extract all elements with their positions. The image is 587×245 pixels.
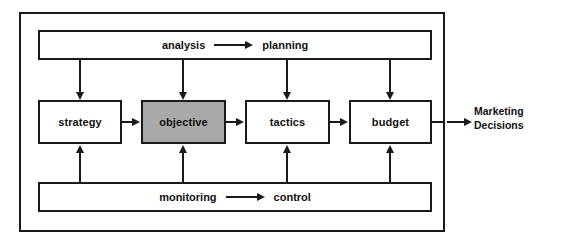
connector-top-to-tactics-line: [286, 60, 288, 96]
output-arrow-head: [464, 118, 472, 126]
connector-top-to-budget-arrow: [386, 92, 394, 100]
connector-bottom-to-objective-arrow: [179, 145, 187, 153]
node-budget[interactable]: budget: [349, 100, 432, 144]
node-tactics[interactable]: tactics: [245, 100, 330, 144]
output-label-line1: Marketing: [474, 104, 524, 118]
top-bar-left-term: analysis: [162, 39, 205, 51]
node-tactics-label: tactics: [270, 116, 306, 128]
connector-top-to-tactics-arrow: [283, 92, 291, 100]
connector-tactics-budget-arrow: [340, 118, 348, 126]
node-budget-label: budget: [372, 116, 409, 128]
connector-top-to-strategy-line: [79, 60, 81, 96]
top-bar-right-term: planning: [262, 39, 308, 51]
right-arrow-icon: [226, 193, 265, 201]
connector-top-to-budget-line: [389, 60, 391, 96]
connector-strategy-objective-arrow: [132, 118, 140, 126]
connector-bottom-to-strategy-line: [79, 152, 81, 182]
connector-bottom-to-budget-arrow: [386, 145, 394, 153]
connector-bottom-to-objective-line: [182, 152, 184, 182]
top-bar-content: analysis planning: [162, 39, 308, 51]
bottom-bar-content: monitoring control: [159, 191, 311, 203]
connector-bottom-to-tactics-arrow: [283, 145, 291, 153]
right-arrow-icon: [214, 41, 253, 49]
output-label-marketing-decisions: Marketing Decisions: [474, 104, 524, 132]
node-strategy-label: strategy: [58, 116, 102, 128]
node-objective[interactable]: objective: [141, 100, 226, 144]
connector-bottom-to-budget-line: [389, 152, 391, 182]
bottom-bar-left-term: monitoring: [159, 191, 216, 203]
connector-objective-tactics-arrow: [236, 118, 244, 126]
connector-budget-to-boundary-line: [432, 121, 445, 123]
output-label-line2: Decisions: [474, 118, 524, 132]
connector-bottom-to-strategy-arrow: [76, 145, 84, 153]
connector-top-to-objective-arrow: [179, 92, 187, 100]
top-bar-analysis-planning: analysis planning: [38, 30, 432, 60]
connector-top-to-objective-line: [182, 60, 184, 96]
bottom-bar-monitoring-control: monitoring control: [38, 182, 432, 212]
node-objective-label: objective: [159, 116, 208, 128]
node-strategy[interactable]: strategy: [38, 100, 122, 144]
marketing-planning-diagram: analysis planning strategy objective tac…: [0, 0, 587, 245]
connector-bottom-to-tactics-line: [286, 152, 288, 182]
connector-top-to-strategy-arrow: [76, 92, 84, 100]
bottom-bar-right-term: control: [274, 191, 311, 203]
